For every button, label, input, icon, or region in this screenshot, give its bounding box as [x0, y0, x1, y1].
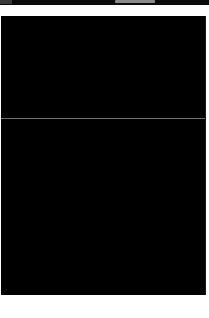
lower-pane[interactable] — [1, 119, 205, 295]
progress-indicator[interactable] — [115, 0, 155, 3]
app-frame — [0, 0, 209, 318]
footer-band — [0, 295, 209, 318]
window-control[interactable] — [0, 0, 12, 4]
header-band — [0, 5, 209, 16]
upper-pane[interactable] — [1, 16, 205, 118]
content-viewport[interactable] — [1, 16, 206, 295]
